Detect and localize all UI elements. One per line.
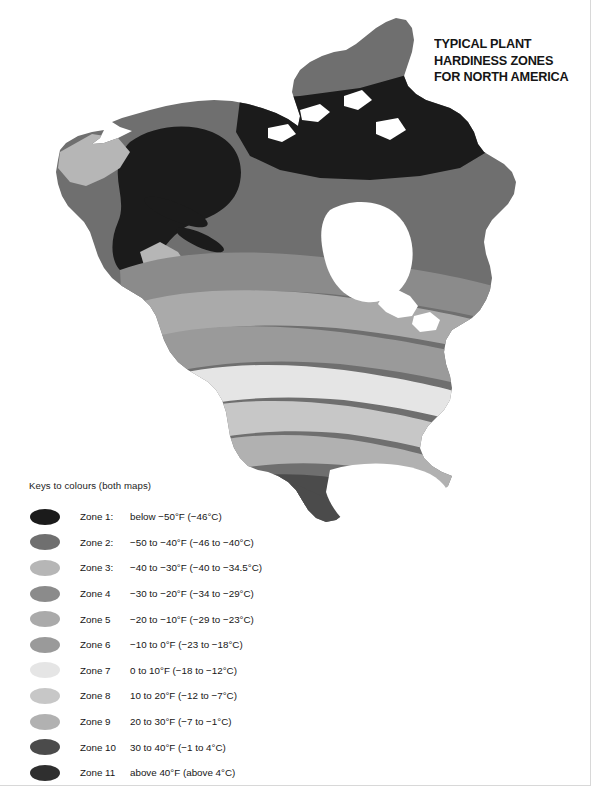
legend-row: Zone 810 to 20°F (−12 to −7°C) [28,683,288,709]
legend-row: Zone 1:below −50°F (−46°C) [28,504,288,530]
legend-zone-range: −30 to −20°F (−34 to −29°C) [130,588,254,599]
legend-swatch [30,586,60,602]
legend-row: Zone 70 to 10°F (−18 to −12°C) [28,658,288,684]
legend-zone-label: Zone 11 [80,767,115,778]
page-title-line-1: TYPICAL PLANT [434,36,569,53]
legend-zone-label: Zone 8 [80,690,111,701]
legend-row: Zone 2:−50 to −40°F (−46 to −40°C) [28,530,288,556]
legend-zone-range: below −50°F (−46°C) [130,511,222,522]
legend-row: Zone 920 to 30°F (−7 to −1°C) [28,709,288,735]
legend-heading: Keys to colours (both maps) [29,480,288,491]
legend-zone-range: 30 to 40°F (−1 to 4°C) [130,742,226,753]
legend-zone-range: −10 to 0°F (−23 to −18°C) [130,639,243,650]
legend-zone-label: Zone 3: [80,562,113,573]
legend-zone-label: Zone 5 [80,614,111,625]
legend-zone-range: 20 to 30°F (−7 to −1°C) [130,716,232,727]
legend-zone-label: Zone 4 [80,588,111,599]
legend-zone-range: 10 to 20°F (−12 to −7°C) [130,690,237,701]
legend-swatch [30,765,60,781]
legend-rows: Zone 1:below −50°F (−46°C)Zone 2:−50 to … [28,504,288,786]
legend-zone-range: −20 to −10°F (−29 to −23°C) [130,614,254,625]
page-title-line-3: FOR NORTH AMERICA [434,69,569,86]
legend-row: Zone 11above 40°F (above 4°C) [28,760,288,786]
legend-swatch [30,560,60,576]
legend-swatch [30,637,60,653]
legend-zone-label: Zone 2: [80,537,113,548]
legend-zone-label: Zone 10 [80,742,116,753]
page-title: TYPICAL PLANT HARDINESS ZONES FOR NORTH … [434,36,577,86]
legend-row: Zone 1030 to 40°F (−1 to 4°C) [28,734,288,760]
legend-zone-range: 0 to 10°F (−18 to −12°C) [130,665,237,676]
page-title-line-2: HARDINESS ZONES [434,53,569,70]
legend-row: Zone 6−10 to 0°F (−23 to −18°C) [28,632,288,658]
legend-swatch [30,688,60,704]
legend-swatch [30,662,60,678]
legend-row: Zone 5−20 to −10°F (−29 to −23°C) [28,606,288,632]
legend-zone-label: Zone 1: [80,511,113,522]
legend-zone-range: −50 to −40°F (−46 to −40°C) [130,537,254,548]
legend-swatch [30,714,60,730]
legend: Keys to colours (both maps) Zone 1:below… [28,480,288,786]
legend-zone-label: Zone 7 [80,665,111,676]
legend-swatch [30,611,60,627]
legend-swatch [30,739,60,755]
legend-row: Zone 4−30 to −20°F (−34 to −29°C) [28,581,288,607]
legend-swatch [30,509,60,525]
plant-hardiness-zone-figure: TYPICAL PLANT HARDINESS ZONES FOR NORTH … [0,0,590,785]
legend-row: Zone 3:−40 to −30°F (−40 to −34.5°C) [28,555,288,581]
legend-zone-label: Zone 6 [80,639,111,650]
legend-swatch [30,534,60,550]
legend-zone-range: above 40°F (above 4°C) [130,767,235,778]
legend-zone-range: −40 to −30°F (−40 to −34.5°C) [130,562,262,573]
legend-zone-label: Zone 9 [80,716,111,727]
